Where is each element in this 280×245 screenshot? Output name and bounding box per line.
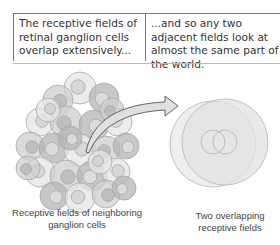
field-center (61, 170, 75, 184)
field-center (117, 184, 128, 195)
receptive-field (113, 133, 139, 159)
field-center (122, 141, 134, 153)
field-center (45, 142, 59, 156)
field-center (21, 164, 32, 175)
label-neighboring-fields: Receptive fields of neighboring ganglion… (12, 207, 142, 231)
receptive-field (40, 182, 68, 210)
overlapping-field-pair (170, 99, 268, 187)
field-center (26, 141, 39, 154)
field-center (67, 134, 78, 145)
receptive-field (112, 176, 136, 200)
field-center (71, 80, 85, 94)
receptive-field (16, 156, 40, 180)
field-center (112, 165, 125, 178)
receptive-field (88, 150, 112, 174)
field-center (93, 156, 104, 167)
receptive-field (36, 98, 60, 122)
receptive-field-cluster (16, 72, 139, 213)
field-center (45, 104, 56, 115)
label-overlapping-fields: Two overlapping receptive fields (185, 210, 275, 234)
receptive-field (58, 126, 82, 150)
field-center (71, 190, 85, 204)
field-center (50, 191, 63, 204)
